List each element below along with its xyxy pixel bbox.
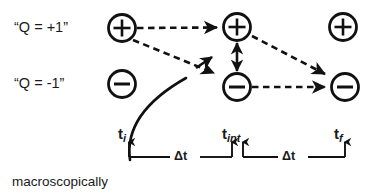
timeline-interval-label-1: Δt <box>174 150 187 163</box>
timeline-interval-label-2: Δt <box>282 150 295 163</box>
timeline-label-t-f: tf <box>334 126 343 144</box>
node-plus-interaction[interactable] <box>224 14 251 41</box>
timeline-label-t-int: tint <box>222 126 240 144</box>
timeline-label-t-i: ti <box>118 126 126 144</box>
node-minus-final[interactable] <box>332 74 359 101</box>
node-minus-initial[interactable] <box>109 71 136 98</box>
caption-text: macroscopically <box>12 175 108 189</box>
timeline-label-t-f-subscript: f <box>339 132 343 144</box>
node-minus-interaction[interactable] <box>224 74 251 101</box>
row-label-q-minus: “Q = -1” <box>14 76 64 91</box>
node-plus-initial[interactable] <box>109 15 136 42</box>
row-label-q-plus: “Q = +1” <box>14 20 68 35</box>
node-plus-final[interactable] <box>330 14 357 41</box>
timeline-label-t-int-subscript: int <box>227 132 240 144</box>
timeline-label-t-i-subscript: i <box>123 132 126 144</box>
